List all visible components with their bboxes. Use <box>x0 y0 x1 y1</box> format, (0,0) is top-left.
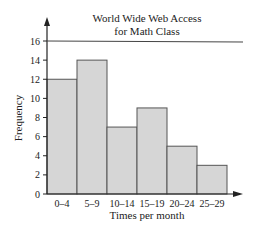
x-tick-label: 25–29 <box>200 198 225 209</box>
bar-4 <box>167 146 197 194</box>
y-tick-label: 16 <box>30 36 40 47</box>
y-arrow-icon <box>44 17 50 26</box>
bar-0 <box>47 79 77 194</box>
y-tick-label: 0 <box>35 189 40 200</box>
x-tick-label: 10–14 <box>110 198 135 209</box>
x-arrow-icon <box>233 191 243 197</box>
x-tick-label: 5–9 <box>85 198 100 209</box>
x-axis-label: Times per month <box>110 209 185 221</box>
y-tick-label: 12 <box>30 74 40 85</box>
bar-5 <box>197 165 227 194</box>
bar-3 <box>137 108 167 194</box>
reference-line <box>47 41 243 42</box>
y-axis-label: Frequency <box>12 94 24 141</box>
y-tick-label: 8 <box>35 112 40 123</box>
histogram-chart: World Wide Web Access for Math Class 024… <box>0 0 260 234</box>
x-tick-label: 15–19 <box>140 198 165 209</box>
x-axis: 0–45–910–1415–1920–2425–29 <box>47 191 243 209</box>
x-tick-label: 0–4 <box>55 198 70 209</box>
y-tick-label: 2 <box>35 169 40 180</box>
y-tick-label: 10 <box>30 93 40 104</box>
y-tick-label: 6 <box>35 131 40 142</box>
chart-subtitle: for Math Class <box>114 25 179 37</box>
bar-2 <box>107 127 137 194</box>
x-tick-label: 20–24 <box>170 198 195 209</box>
chart-title: World Wide Web Access <box>93 12 202 24</box>
y-tick-label: 4 <box>35 150 40 161</box>
y-tick-label: 14 <box>30 55 40 66</box>
bar-1 <box>77 60 107 194</box>
bars-group <box>47 60 227 194</box>
